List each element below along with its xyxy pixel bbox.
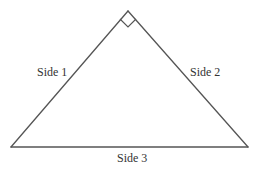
right-triangle-diagram: Side 1 Side 2 Side 3 — [0, 0, 255, 169]
side-2-label: Side 2 — [190, 65, 220, 79]
side-2-edge — [128, 11, 248, 147]
right-angle-marker-icon — [120, 19, 136, 27]
side-1-edge — [11, 11, 128, 147]
side-1-label: Side 1 — [37, 65, 67, 79]
side-3-label: Side 3 — [117, 151, 147, 165]
